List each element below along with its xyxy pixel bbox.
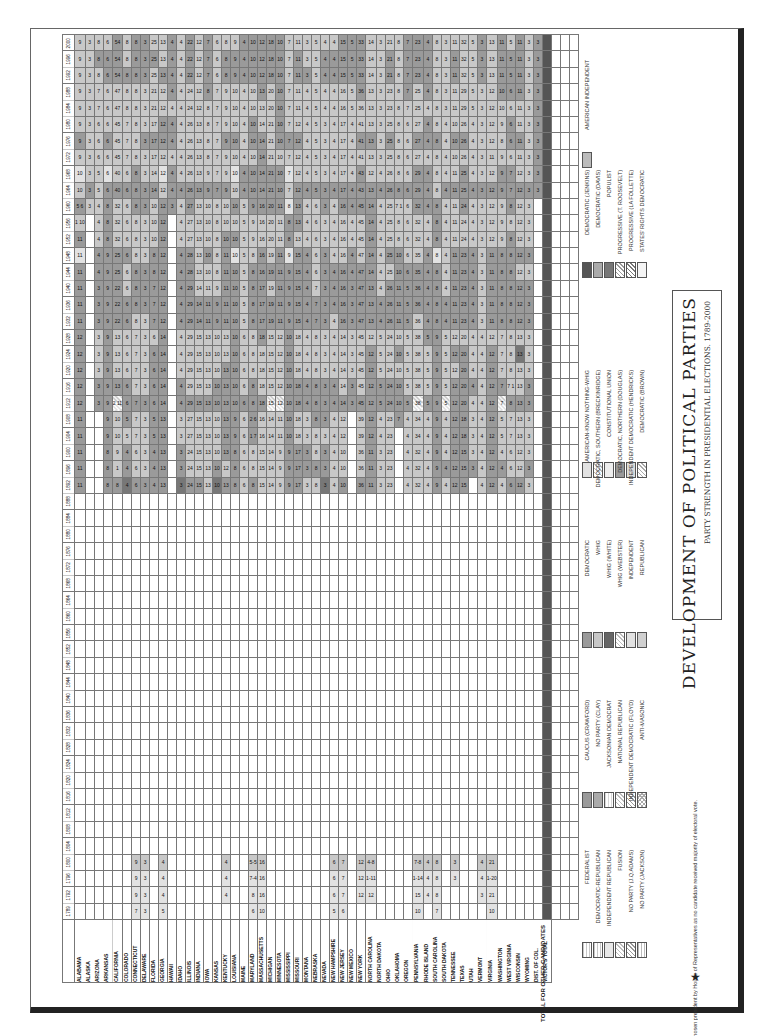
state-label: WEST VIRGINIA (506, 920, 515, 983)
other-cell (551, 411, 560, 427)
vote-cell (330, 805, 339, 821)
other-cell (569, 510, 578, 526)
other-cell (551, 346, 560, 362)
year-label: 1844 (63, 674, 75, 690)
vote-cell: 11 (75, 231, 86, 247)
vote-cell: 5 (312, 166, 321, 182)
vote-cell: 15 (294, 297, 303, 313)
vote-cell (112, 870, 122, 886)
vote-cell (348, 707, 357, 723)
vote-cell (348, 477, 357, 493)
vote-cell: 8 (432, 35, 441, 51)
other-cell (551, 854, 560, 870)
vote-cell (542, 903, 551, 919)
vote-cell: 6 (94, 149, 103, 165)
vote-cell: 5 (376, 346, 385, 362)
vote-cell: 4 (441, 444, 450, 460)
vote-cell: 6 (403, 231, 412, 247)
vote-cell: 1 10 (75, 215, 86, 231)
vote-cell (85, 838, 94, 854)
vote-cell (222, 674, 231, 690)
vote-cell (348, 411, 357, 427)
vote-cell (403, 690, 412, 706)
vote-cell (394, 526, 403, 542)
other-cell (560, 362, 569, 378)
vote-cell: 12 (159, 280, 168, 296)
vote-cell (542, 346, 551, 362)
vote-cell (468, 657, 477, 673)
vote-cell: 10 (450, 149, 459, 165)
vote-cell (85, 444, 94, 460)
vote-cell: 3 (533, 149, 542, 165)
vote-cell (339, 690, 348, 706)
vote-cell: 6 (123, 313, 132, 329)
vote-cell (103, 887, 112, 903)
vote-cell (376, 559, 385, 575)
vote-cell: 13 (222, 362, 231, 378)
vote-cell: 10 (394, 248, 403, 264)
vote-cell (423, 657, 432, 673)
vote-cell: 7 (506, 411, 515, 427)
vote-cell (533, 608, 542, 624)
vote-cell (276, 543, 285, 559)
other-cell (569, 903, 578, 919)
other-cell (551, 330, 560, 346)
vote-cell (524, 838, 533, 854)
vote-cell (468, 575, 477, 591)
vote-cell: 7 (339, 870, 348, 886)
vote-cell: 4 (330, 149, 339, 165)
vote-cell (459, 723, 468, 739)
vote-cell (94, 592, 103, 608)
vote-cell: 10 (285, 411, 294, 427)
other-cell (551, 477, 560, 493)
vote-cell: 3 (85, 51, 94, 67)
vote-cell (542, 674, 551, 690)
legend-label: POPULIST (606, 170, 612, 197)
vote-cell (123, 723, 132, 739)
vote-cell: 41 (357, 149, 366, 165)
year-row: 1988937647883211244241287910410132010711… (63, 84, 579, 100)
year-label: 1828 (63, 739, 75, 755)
vote-cell (348, 510, 357, 526)
vote-cell: 6 (123, 362, 132, 378)
legend-label: DEMOCRATIC (DAVIS) (595, 170, 601, 228)
vote-cell (432, 707, 441, 723)
vote-cell: 13 (222, 477, 231, 493)
vote-cell (524, 772, 533, 788)
legend-label: PROGRESSIVE (LA FOLLETTE) (628, 170, 634, 251)
vote-cell: 3 (321, 297, 330, 313)
vote-cell (339, 608, 348, 624)
vote-cell (213, 608, 222, 624)
other-cell (551, 707, 560, 723)
legend-label: CONSTITUTIONAL UNION (606, 370, 612, 437)
vote-cell: 8 (249, 395, 258, 411)
vote-cell (542, 854, 551, 870)
vote-cell: 13 (159, 51, 168, 67)
vote-cell: 13 (112, 330, 122, 346)
vote-cell: 8 (432, 264, 441, 280)
vote-cell: 29 (186, 362, 195, 378)
vote-cell (222, 707, 231, 723)
vote-cell: 12 (515, 231, 524, 247)
vote-cell (542, 330, 551, 346)
vote-cell (542, 477, 551, 493)
vote-cell (258, 805, 267, 821)
vote-cell (204, 510, 213, 526)
vote-cell: 8 (249, 330, 258, 346)
vote-cell: 5 (506, 67, 515, 83)
vote-cell (506, 510, 515, 526)
vote-cell (506, 526, 515, 542)
vote-cell: 14 (258, 149, 267, 165)
vote-cell: 23 (385, 444, 394, 460)
vote-cell (533, 559, 542, 575)
vote-cell (177, 641, 186, 657)
vote-cell: 4 (168, 51, 177, 67)
chart-title: DEVELOPMENT OF POLITICAL PARTIES (679, 297, 699, 689)
vote-cell: 8 (249, 297, 258, 313)
legend-swatch (637, 942, 647, 958)
vote-cell (285, 608, 294, 624)
vote-cell: 4 (177, 198, 186, 214)
vote-cell: 4 (240, 51, 249, 67)
vote-cell (486, 805, 497, 821)
vote-cell: 9 (75, 84, 86, 100)
